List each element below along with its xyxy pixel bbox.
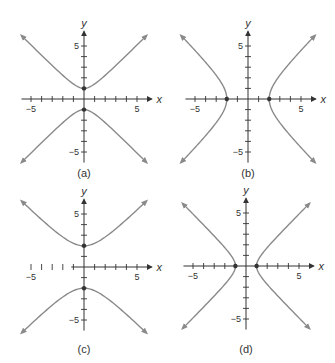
y-tick-label-5: 5 <box>74 209 79 219</box>
hyperbola-plot-a: −555−5xy(a) <box>0 0 168 182</box>
vertex-point <box>82 107 86 111</box>
vertex-point <box>254 264 258 268</box>
hyperbola-plot-d: −555−5xy(d) <box>164 168 335 363</box>
graph-b: −555−5xy(b) <box>164 0 335 182</box>
y-tick-label-5: 5 <box>74 41 79 51</box>
x-tick-label-neg5: −5 <box>26 272 36 282</box>
x-tick-label-neg5: −5 <box>26 104 36 114</box>
graph-c: −555−5xy(c) <box>0 168 168 363</box>
y-tick-label-neg5: −5 <box>231 314 241 324</box>
vertex-point <box>225 97 229 101</box>
y-tick-label-neg5: −5 <box>233 147 243 157</box>
y-axis-label: y <box>80 17 88 29</box>
x-tick-label-neg5: −5 <box>190 104 200 114</box>
x-tick-label-5: 5 <box>134 272 139 282</box>
x-axis-label: x <box>156 93 163 105</box>
vertex-point <box>267 97 271 101</box>
y-tick-label-neg5: −5 <box>69 147 79 157</box>
x-axis-label: x <box>320 93 327 105</box>
panel-label: (d) <box>239 343 252 355</box>
panel-label: (c) <box>78 343 91 355</box>
x-tick-label-5: 5 <box>134 104 139 114</box>
x-tick-label-neg5: −5 <box>188 271 198 281</box>
hyperbola-plot-c: −555−5xy(c) <box>0 168 168 363</box>
y-axis-label: y <box>244 17 252 29</box>
hyperbola-plot-b: −555−5xy(b) <box>164 0 335 182</box>
vertex-point <box>82 244 86 248</box>
y-axis-label: y <box>80 185 88 197</box>
x-tick-label-5: 5 <box>296 271 301 281</box>
x-axis-label: x <box>156 261 163 273</box>
x-tick-label-5: 5 <box>298 104 303 114</box>
vertex-point <box>82 86 86 90</box>
y-tick-label-neg5: −5 <box>69 315 79 325</box>
vertex-point <box>82 286 86 290</box>
y-tick-label-5: 5 <box>236 208 241 218</box>
y-axis-label: y <box>242 184 250 196</box>
x-axis-label: x <box>318 260 325 272</box>
graph-d: −555−5xy(d) <box>164 168 335 363</box>
y-tick-label-5: 5 <box>238 41 243 51</box>
graph-a: −555−5xy(a) <box>0 0 168 182</box>
vertex-point <box>233 264 237 268</box>
